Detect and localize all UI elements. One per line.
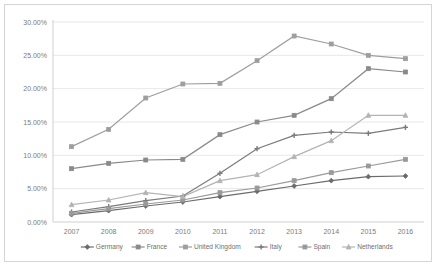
x-tick-label: 2016 <box>398 228 414 235</box>
legend-item-italy[interactable]: Italy <box>255 243 283 251</box>
data-point-united-kingdom-2010 <box>181 82 185 86</box>
gridlines-group <box>53 20 424 222</box>
line-chart-svg: 0.00%5.00%10.00%15.00%20.00%25.00%30.00%… <box>0 0 436 266</box>
legend-label-united-kingdom: United Kingdom <box>194 243 241 251</box>
data-point-spain-2013 <box>292 179 296 183</box>
data-point-italy-2016 <box>403 125 408 130</box>
legend-marker-france <box>136 245 140 249</box>
data-point-france-2007 <box>70 167 74 171</box>
x-tick-label: 2012 <box>249 228 265 235</box>
data-point-italy-2014 <box>329 129 334 134</box>
data-point-germany-2014 <box>329 178 334 183</box>
data-point-netherlands-2014 <box>329 138 334 143</box>
y-tick-label: 20.00% <box>23 85 47 92</box>
data-point-france-2008 <box>107 161 111 165</box>
y-tick-label: 15.00% <box>23 119 47 126</box>
legend-label-netherlands: Netherlands <box>357 243 393 250</box>
series-line-germany <box>72 176 406 215</box>
data-point-united-kingdom-2016 <box>403 57 407 61</box>
data-point-spain-2016 <box>403 157 407 161</box>
legend-marker-united-kingdom <box>183 245 187 249</box>
legend-marker-germany <box>85 245 90 250</box>
x-tick-label: 2013 <box>286 228 302 235</box>
data-point-united-kingdom-2011 <box>218 81 222 85</box>
data-point-france-2012 <box>255 120 259 124</box>
data-point-germany-2013 <box>292 184 297 189</box>
legend-label-italy: Italy <box>270 243 283 251</box>
y-tick-label: 10.00% <box>23 152 47 159</box>
legend: GermanyFranceUnited KingdomItalySpainNet… <box>81 243 394 251</box>
data-point-france-2011 <box>218 133 222 137</box>
data-point-spain-2008 <box>107 207 111 211</box>
legend-label-spain: Spain <box>313 243 330 251</box>
data-point-united-kingdom-2009 <box>144 96 148 100</box>
legend-item-germany[interactable]: Germany <box>81 243 124 251</box>
series-lines-group <box>72 36 406 215</box>
legend-label-france: France <box>147 243 168 250</box>
x-tick-label: 2010 <box>175 228 191 235</box>
data-point-france-2015 <box>366 67 370 71</box>
legend-marker-spain <box>303 245 307 249</box>
legend-item-france[interactable]: France <box>132 243 168 250</box>
plot-area: 0.00%5.00%10.00%15.00%20.00%25.00%30.00%… <box>0 0 436 266</box>
x-tick-label: 2007 <box>64 228 80 235</box>
x-axis-tick-labels: 2007200820092010201120122013201420152016 <box>64 228 414 235</box>
x-tick-label: 2014 <box>323 228 339 235</box>
data-point-spain-2015 <box>366 164 370 168</box>
data-point-france-2009 <box>144 158 148 162</box>
legend-item-united-kingdom[interactable]: United Kingdom <box>179 243 241 251</box>
data-point-germany-2015 <box>366 174 371 179</box>
data-point-spain-2011 <box>218 191 222 195</box>
legend-marker-italy <box>259 244 264 249</box>
y-tick-label: 25.00% <box>23 52 47 59</box>
data-point-spain-2007 <box>70 211 74 215</box>
data-point-united-kingdom-2008 <box>107 127 111 131</box>
legend-item-netherlands[interactable]: Netherlands <box>342 243 393 250</box>
series-line-italy <box>72 127 406 212</box>
data-point-france-2013 <box>292 113 296 117</box>
legend-label-germany: Germany <box>96 243 124 251</box>
data-point-united-kingdom-2007 <box>70 145 74 149</box>
series-markers-group <box>69 34 408 217</box>
series-line-united-kingdom <box>72 36 406 147</box>
y-axis-tick-labels: 0.00%5.00%10.00%15.00%20.00%25.00%30.00% <box>23 19 47 226</box>
y-tick-label: 30.00% <box>23 19 47 26</box>
data-point-spain-2014 <box>329 171 333 175</box>
series-line-spain <box>72 159 406 213</box>
y-tick-label: 5.00% <box>27 185 47 192</box>
y-tick-label: 0.00% <box>27 219 47 226</box>
data-point-spain-2012 <box>255 186 259 190</box>
x-tick-label: 2011 <box>212 228 227 235</box>
data-point-spain-2009 <box>144 202 148 206</box>
x-tick-label: 2015 <box>361 228 377 235</box>
x-tick-label: 2008 <box>101 228 117 235</box>
data-point-france-2014 <box>329 97 333 101</box>
x-tick-label: 2009 <box>138 228 154 235</box>
data-point-france-2016 <box>403 70 407 74</box>
data-point-united-kingdom-2015 <box>366 53 370 57</box>
data-point-united-kingdom-2013 <box>292 34 296 38</box>
data-point-united-kingdom-2014 <box>329 42 333 46</box>
data-point-france-2010 <box>181 157 185 161</box>
data-point-germany-2016 <box>403 174 408 179</box>
chart-container: 0.00%5.00%10.00%15.00%20.00%25.00%30.00%… <box>0 0 436 266</box>
data-point-italy-2013 <box>292 133 297 138</box>
data-point-united-kingdom-2012 <box>255 59 259 63</box>
data-point-italy-2015 <box>366 131 371 136</box>
legend-item-spain[interactable]: Spain <box>298 243 330 251</box>
